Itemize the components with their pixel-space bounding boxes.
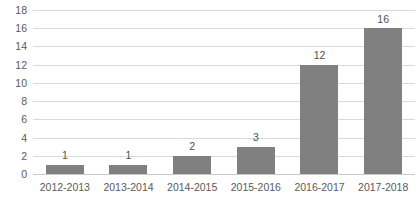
bar-group: 2 — [160, 10, 224, 174]
x-axis-tick-label: 2015-2016 — [231, 182, 281, 193]
bar-group: 3 — [224, 10, 288, 174]
x-axis-tick-label: 2012-2013 — [40, 182, 90, 193]
bar — [364, 28, 402, 174]
bar — [173, 156, 211, 174]
bars-layer: 11231216 — [33, 10, 415, 174]
y-axis-tick-label: 4 — [1, 132, 27, 143]
bar — [46, 165, 84, 174]
bar-group: 12 — [288, 10, 352, 174]
x-axis: 2012-20132013-20142014-20152015-20162016… — [33, 178, 415, 200]
bar-value-label: 16 — [377, 14, 389, 25]
bar-value-label: 1 — [62, 150, 68, 161]
x-axis-tick-label: 2017-2018 — [358, 182, 408, 193]
bar — [237, 147, 275, 174]
y-axis-tick-label: 12 — [1, 59, 27, 70]
bar-group: 1 — [97, 10, 161, 174]
axis-baseline — [33, 174, 415, 175]
y-axis-tick-label: 0 — [1, 169, 27, 180]
y-axis-tick-label: 6 — [1, 114, 27, 125]
y-axis-tick-label: 2 — [1, 151, 27, 162]
x-axis-tick-label: 2013-2014 — [103, 182, 153, 193]
y-axis-tick-label: 8 — [1, 96, 27, 107]
y-axis-tick-label: 18 — [1, 5, 27, 16]
y-axis: 024681012141618 — [0, 10, 27, 174]
bar-chart: 024681012141618 11231216 2012-20132013-2… — [0, 0, 420, 205]
x-axis-tick-label: 2016-2017 — [294, 182, 344, 193]
bar-value-label: 3 — [253, 132, 259, 143]
bar-value-label: 2 — [189, 141, 195, 152]
y-axis-tick-label: 16 — [1, 23, 27, 34]
y-axis-tick-label: 14 — [1, 41, 27, 52]
bar-value-label: 1 — [126, 150, 132, 161]
bar — [109, 165, 147, 174]
y-axis-tick-label: 10 — [1, 78, 27, 89]
bar — [300, 65, 338, 174]
bar-group: 1 — [33, 10, 97, 174]
bar-group: 16 — [351, 10, 415, 174]
bar-value-label: 12 — [314, 50, 326, 61]
x-axis-tick-label: 2014-2015 — [167, 182, 217, 193]
